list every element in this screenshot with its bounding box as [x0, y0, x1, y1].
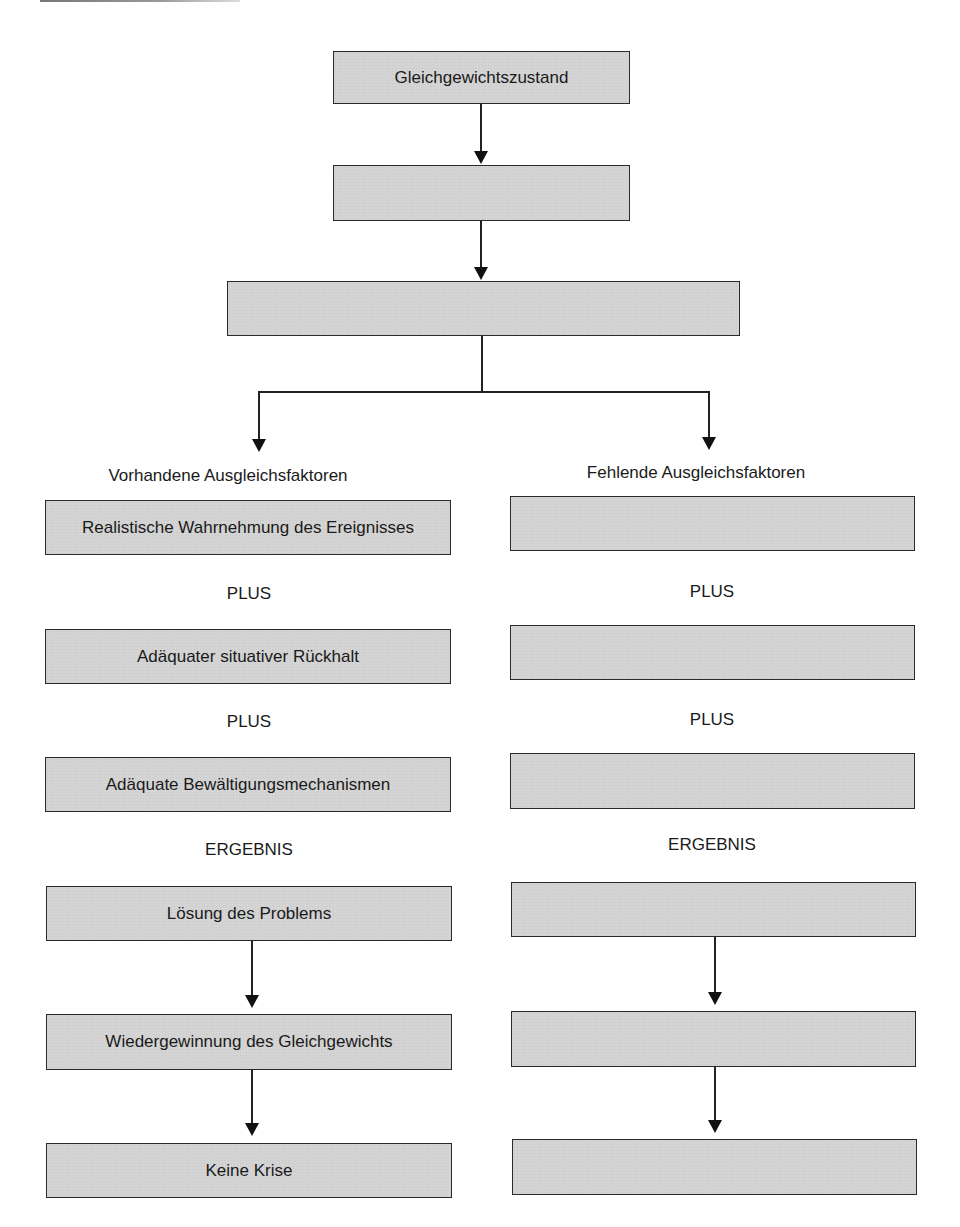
arrow-down-icon: [474, 151, 488, 164]
left-box-perception: Realistische Wahrnehmung des Ereignisses: [45, 500, 451, 555]
connector-line: [714, 937, 716, 992]
right-box-3: [510, 753, 915, 809]
right-connector-result: ERGEBNIS: [668, 835, 756, 855]
arrow-down-icon: [252, 439, 266, 452]
arrow-down-icon: [245, 995, 259, 1008]
left-box-solution-label: Lösung des Problems: [167, 904, 331, 924]
connector-line: [480, 221, 482, 267]
left-box-coping-label: Adäquate Bewältigungsmechanismen: [106, 775, 390, 795]
page-edge-rule: [40, 0, 240, 2]
left-connector-plus-2: PLUS: [227, 712, 271, 732]
arrow-down-icon: [245, 1123, 259, 1136]
left-box-no-crisis-label: Keine Krise: [206, 1161, 293, 1181]
arrow-down-icon: [474, 267, 488, 280]
branch-left-line: [258, 391, 260, 439]
right-box-5: [511, 1011, 916, 1067]
right-box-4: [511, 882, 916, 937]
left-box-perception-label: Realistische Wahrnehmung des Ereignisses: [82, 518, 414, 538]
branch-stem-line: [481, 336, 483, 393]
equilibrium-box: Gleichgewichtszustand: [333, 51, 630, 104]
branch-right-line: [708, 391, 710, 437]
branch-horizontal-line: [258, 391, 709, 393]
left-connector-plus-1: PLUS: [227, 584, 271, 604]
connector-line: [251, 1070, 253, 1123]
left-column-heading: Vorhandene Ausgleichsfaktoren: [108, 466, 347, 486]
left-box-support: Adäquater situativer Rückhalt: [45, 629, 451, 684]
right-column-heading: Fehlende Ausgleichsfaktoren: [587, 463, 805, 483]
arrow-down-icon: [702, 437, 716, 450]
left-box-no-crisis: Keine Krise: [46, 1143, 452, 1198]
connector-line: [480, 104, 482, 151]
arrow-down-icon: [708, 1120, 722, 1133]
left-box-regain-equilibrium: Wiedergewinnung des Gleichgewichts: [46, 1014, 452, 1070]
right-box-6: [512, 1139, 917, 1195]
right-connector-plus-1: PLUS: [690, 582, 734, 602]
left-box-regain-equilibrium-label: Wiedergewinnung des Gleichgewichts: [105, 1032, 392, 1052]
left-box-support-label: Adäquater situativer Rückhalt: [137, 647, 359, 667]
right-box-1: [510, 496, 915, 551]
left-box-coping: Adäquate Bewältigungsmechanismen: [45, 757, 451, 812]
left-box-solution: Lösung des Problems: [46, 886, 452, 941]
stress-event-box: [333, 165, 630, 221]
connector-line: [714, 1067, 716, 1120]
right-connector-plus-2: PLUS: [690, 710, 734, 730]
left-connector-result: ERGEBNIS: [205, 840, 293, 860]
right-box-2: [510, 625, 915, 680]
arrow-down-icon: [708, 992, 722, 1005]
imbalance-box: [227, 281, 740, 336]
connector-line: [251, 941, 253, 995]
equilibrium-label: Gleichgewichtszustand: [395, 68, 569, 88]
